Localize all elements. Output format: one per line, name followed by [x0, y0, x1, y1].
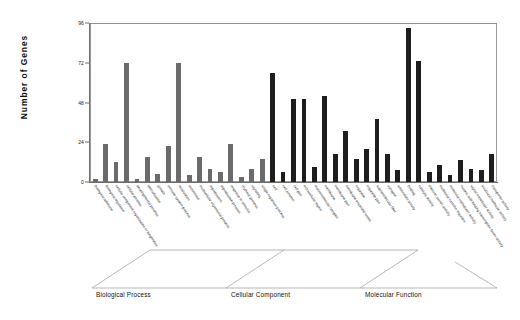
group-label-molecular-function: Molecular Function: [365, 291, 422, 298]
go-annotation-chart: 024487296 Number of Genes biological adh…: [0, 0, 520, 320]
group-label-biological-process: Biological Process: [96, 291, 151, 298]
group-bracket-lines: [0, 0, 520, 320]
group-label-cellular-component: Cellular Component: [231, 291, 290, 298]
